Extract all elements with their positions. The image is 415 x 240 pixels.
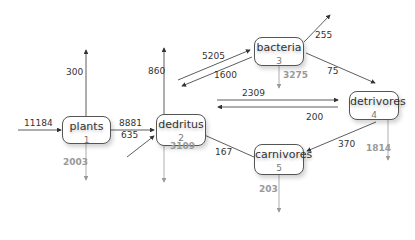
arrow-bacteria-to-detrivores: [306, 53, 375, 83]
label-plants-to-dedritus: 8881: [119, 118, 142, 128]
label-detrivores-to-carnivores: 370: [338, 139, 355, 149]
node-carnivores[interactable]: carnivores 5: [254, 144, 304, 175]
node-label: dedritus: [157, 118, 205, 131]
node-label: carnivores: [255, 148, 303, 161]
label-bacteria-loss: 3275: [283, 70, 308, 80]
label-bacteria-to-detrivores: 75: [327, 66, 338, 76]
label-bacteria-export: 255: [315, 30, 332, 40]
node-detrivores[interactable]: detrivores 4: [349, 91, 399, 120]
label-input-plants: 11184: [24, 118, 53, 128]
label-dedritus-to-bacteria: 5205: [202, 51, 225, 61]
label-detrivores-to-dedritus: 200: [306, 112, 323, 122]
label-input-dedritus: 635: [121, 130, 138, 140]
node-bacteria[interactable]: bacteria 3: [254, 37, 304, 66]
node-number: 4: [350, 110, 398, 121]
label-dedritus-to-detrivores: 2309: [242, 88, 265, 98]
label-plants-loss: 2003: [63, 157, 88, 167]
label-dedritus-export: 860: [148, 66, 165, 76]
label-detrivores-loss: 1814: [366, 143, 391, 153]
node-plants[interactable]: plants 1: [62, 116, 111, 144]
node-label: detrivores: [350, 95, 398, 108]
label-carnivores-loss: 203: [259, 184, 278, 194]
label-plants-export: 300: [66, 67, 83, 77]
node-label: plants: [63, 120, 110, 133]
label-bacteria-to-dedritus: 1600: [214, 70, 237, 80]
node-number: 5: [255, 163, 303, 174]
label-dedritus-loss: 3109: [170, 141, 195, 151]
node-label: bacteria: [255, 41, 303, 54]
node-number: 3: [255, 56, 303, 67]
node-number: 1: [63, 135, 110, 146]
label-carnivores-to-dedritus: 167: [215, 147, 232, 157]
